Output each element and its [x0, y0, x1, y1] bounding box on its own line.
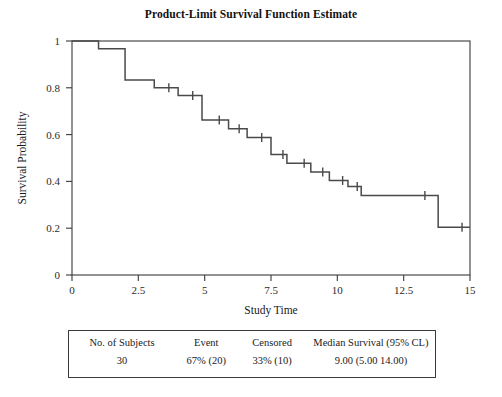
- header-median-survival: Median Survival (95% CL): [307, 331, 435, 349]
- summary-value-row: 30 67% (20) 33% (10) 9.00 (5.00 14.00): [69, 349, 435, 377]
- x-tick-label: 0: [69, 284, 75, 296]
- survival-plot: 1 0.8 0.6 0.4 0.2 0 0 2.5 5 7.5 10 12.5 …: [0, 0, 502, 330]
- header-no-of-subjects: No. of Subjects: [69, 331, 175, 349]
- survival-chart-page: Product-Limit Survival Function Estimate…: [0, 0, 502, 397]
- y-tick-label: 0.4: [46, 175, 60, 187]
- y-tick-label: 0.2: [46, 222, 60, 234]
- censor-marks-group: [169, 83, 462, 231]
- value-median-survival: 9.00 (5.00 14.00): [307, 349, 435, 377]
- x-tick-label: 2.5: [131, 284, 145, 296]
- x-axis-tick-labels: 0 2.5 5 7.5 10 12.5 15: [69, 284, 476, 296]
- value-no-of-subjects: 30: [69, 349, 175, 377]
- y-tick-label: 0: [55, 269, 61, 281]
- x-tick-label: 10: [332, 284, 344, 296]
- x-tick-label: 7.5: [264, 284, 278, 296]
- y-tick-label: 0.8: [46, 82, 60, 94]
- summary-table: No. of Subjects Event Censored Median Su…: [69, 331, 435, 377]
- x-axis-label: Study Time: [244, 304, 297, 317]
- x-tick-label: 12.5: [394, 284, 414, 296]
- value-event: 67% (20): [175, 349, 237, 377]
- y-tick-label: 1: [55, 35, 61, 47]
- header-censored: Censored: [237, 331, 307, 349]
- y-tick-label: 0.6: [46, 129, 60, 141]
- survival-step-curve: [72, 41, 470, 227]
- x-tick-label: 15: [465, 284, 477, 296]
- y-axis-ticks: [66, 41, 72, 275]
- header-event: Event: [175, 331, 237, 349]
- summary-statistics-box: No. of Subjects Event Censored Median Su…: [68, 330, 436, 378]
- x-tick-label: 5: [202, 284, 208, 296]
- plot-frame: [72, 41, 470, 275]
- value-censored: 33% (10): [237, 349, 307, 377]
- y-axis-tick-labels: 1 0.8 0.6 0.4 0.2 0: [46, 35, 60, 281]
- summary-header-row: No. of Subjects Event Censored Median Su…: [69, 331, 435, 349]
- y-axis-label: Survival Probability: [16, 111, 29, 204]
- x-axis-ticks: [72, 275, 470, 281]
